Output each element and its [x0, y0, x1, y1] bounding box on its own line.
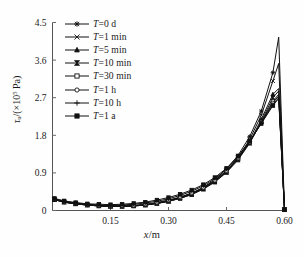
y-axis-title: τu/(×105 Pa) [9, 52, 24, 148]
legend-item-label: T=1 a [90, 110, 116, 122]
x-axis-title-unit: /m [149, 229, 161, 240]
legend-value-text: =30 min [98, 70, 131, 81]
data-point [53, 197, 56, 200]
data-point [225, 167, 228, 170]
y-axis-tick-label: 3.6 [35, 56, 47, 66]
legend-item: T=10 h [64, 96, 184, 109]
legend-item-label: T=0 d [90, 18, 116, 30]
data-point [120, 203, 123, 206]
data-point [167, 196, 170, 199]
data-point [271, 104, 274, 107]
data-point [74, 201, 77, 204]
data-point [109, 203, 112, 206]
data-point [213, 176, 216, 179]
x-axis-title: x/m [0, 229, 304, 241]
legend-item-label: T=10 min [90, 57, 131, 69]
marker-square-filled [64, 110, 90, 122]
y-axis-tick-label: 0 [42, 206, 47, 216]
x-axis-tick-label: 0.30 [160, 216, 177, 226]
data-point [178, 193, 181, 196]
legend-value-text: =10 min [98, 57, 131, 68]
legend-item-label: T=1 h [90, 84, 116, 96]
legend-value-text: =1 a [98, 110, 115, 121]
data-point [260, 122, 263, 125]
legend-item-label: T=5 min [90, 44, 127, 56]
legend-value-text: =1 min [98, 31, 126, 42]
legend-value-text: =1 h [98, 84, 116, 95]
marker-triangle-up [64, 44, 90, 56]
legend-value-text: =0 d [98, 18, 116, 29]
y-axis-title-unit: /(×10 [11, 95, 22, 117]
chart-figure: 00.91.82.73.64.50.150.300.450.60 τu/(×10… [0, 0, 304, 257]
data-point [248, 139, 251, 142]
legend-item: T=0 d [64, 17, 184, 30]
legend-item: T=1 h [64, 83, 184, 96]
data-point [86, 202, 89, 205]
y-axis-tick-label: 0.9 [35, 168, 47, 178]
data-point [144, 200, 147, 203]
marker-cross-bar [64, 31, 90, 43]
marker-bowtie [64, 57, 90, 69]
y-axis-title-exponent: 5 [11, 92, 18, 95]
y-axis-tick-label: 1.8 [35, 131, 47, 141]
data-point [132, 202, 135, 205]
y-axis-tick-label: 4.5 [35, 18, 47, 28]
legend-value-text: =10 h [98, 97, 121, 108]
data-point [190, 188, 193, 191]
legend-item-label: T=30 min [90, 70, 131, 82]
legend-item-label: T=1 min [90, 31, 127, 43]
x-axis-tick-label: 0.45 [218, 216, 235, 226]
legend-item: T=30 min [64, 70, 184, 83]
data-point [202, 183, 205, 186]
marker-circle-open [64, 84, 90, 96]
legend-item-label: T=10 h [90, 97, 121, 109]
legend-item: T=10 min [64, 57, 184, 70]
y-axis-title-symbol: τ [11, 120, 22, 124]
y-axis-title-tail: Pa) [11, 76, 22, 92]
legend-item: T=1 min [64, 30, 184, 43]
legend: T=0 dT=1 minT=5 minT=10 minT=30 minT=1 h… [64, 17, 184, 123]
data-point [62, 199, 65, 202]
y-axis-title-subscript: u [15, 117, 22, 120]
data-point [236, 154, 239, 157]
data-point [271, 70, 275, 74]
legend-value-text: =5 min [98, 44, 126, 55]
x-axis-tick-label: 0.15 [102, 216, 119, 226]
data-point [97, 203, 100, 206]
data-point [155, 198, 158, 201]
x-axis-tick-label: 0.60 [276, 216, 293, 226]
y-axis-tick-label: 2.7 [35, 93, 47, 103]
legend-item: T=5 min [64, 43, 184, 56]
legend-item: T=1 a [64, 109, 184, 122]
marker-star-cross [64, 18, 90, 30]
marker-plus [64, 97, 90, 109]
data-point [283, 208, 286, 211]
marker-square-open [64, 70, 90, 82]
